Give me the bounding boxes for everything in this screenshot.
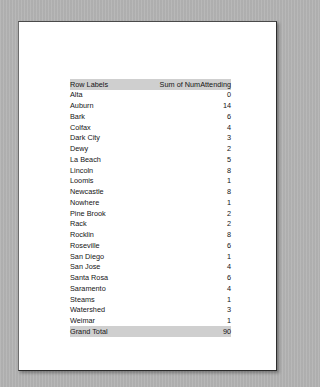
table-row: La Beach5 [70, 154, 231, 165]
row-label: Saramento [70, 283, 126, 294]
row-value: 6 [126, 240, 231, 251]
table-row: Newcastle8 [70, 187, 231, 198]
table-row: Weimar1 [70, 316, 231, 327]
row-value: 2 [126, 208, 231, 219]
row-label: Rack [70, 219, 126, 230]
scanned-page: Row Labels Sum of NumAttending Alta0Aubu… [18, 21, 277, 371]
table-row: Bark6 [70, 111, 231, 122]
table-row: Steams1 [70, 294, 231, 305]
row-value: 0 [126, 90, 231, 101]
row-value: 3 [126, 133, 231, 144]
table-header-row: Row Labels Sum of NumAttending [70, 79, 231, 90]
row-value: 1 [126, 251, 231, 262]
row-value: 6 [126, 111, 231, 122]
row-label: Newcastle [70, 187, 126, 198]
row-label: Rocklin [70, 230, 126, 241]
row-value: 8 [126, 230, 231, 241]
table-header: Row Labels Sum of NumAttending [70, 79, 231, 90]
table-row: Lincoln8 [70, 165, 231, 176]
table-row: Colfax4 [70, 122, 231, 133]
row-label: La Beach [70, 154, 126, 165]
table-row: Santa Rosa6 [70, 273, 231, 284]
row-value: 1 [126, 197, 231, 208]
column-header-row-labels[interactable]: Row Labels [70, 79, 126, 90]
row-value: 3 [126, 305, 231, 316]
row-label: Watershed [70, 305, 126, 316]
table-row: Saramento4 [70, 283, 231, 294]
column-header-sum-of-numattending[interactable]: Sum of NumAttending [126, 79, 231, 90]
row-label: Weimar [70, 316, 126, 327]
grand-total-value: 90 [126, 326, 231, 337]
row-label: Nowhere [70, 197, 126, 208]
row-value: 1 [126, 176, 231, 187]
table-row: Loomis1 [70, 176, 231, 187]
row-value: 14 [126, 101, 231, 112]
table-row: Rack2 [70, 219, 231, 230]
table-row: Auburn14 [70, 101, 231, 112]
table-row: Dark City3 [70, 133, 231, 144]
row-label: Bark [70, 111, 126, 122]
row-label: Loomis [70, 176, 126, 187]
table-row: San Diego1 [70, 251, 231, 262]
table-row: Pine Brook2 [70, 208, 231, 219]
row-label: San Jose [70, 262, 126, 273]
grand-total-label: Grand Total [70, 326, 126, 337]
table-row: Roseville6 [70, 240, 231, 251]
row-label: Santa Rosa [70, 273, 126, 284]
table-row: Alta0 [70, 90, 231, 101]
row-value: 1 [126, 316, 231, 327]
row-label: Alta [70, 90, 126, 101]
row-label: Roseville [70, 240, 126, 251]
row-value: 4 [126, 262, 231, 273]
table-row: San Jose4 [70, 262, 231, 273]
row-value: 4 [126, 283, 231, 294]
row-value: 8 [126, 165, 231, 176]
row-label: Lincoln [70, 165, 126, 176]
row-label: Dewy [70, 144, 126, 155]
table-body: Alta0Auburn14Bark6Colfax4Dark City3Dewy2… [70, 90, 231, 327]
row-label: Dark City [70, 133, 126, 144]
row-value: 2 [126, 219, 231, 230]
table-row: Dewy2 [70, 144, 231, 155]
row-value: 1 [126, 294, 231, 305]
table-row: Rocklin8 [70, 230, 231, 241]
row-value: 2 [126, 144, 231, 155]
row-label: Pine Brook [70, 208, 126, 219]
table-footer: Grand Total 90 [70, 326, 231, 337]
row-value: 4 [126, 122, 231, 133]
row-label: Colfax [70, 122, 126, 133]
row-label: San Diego [70, 251, 126, 262]
row-value: 8 [126, 187, 231, 198]
grand-total-row: Grand Total 90 [70, 326, 231, 337]
row-label: Auburn [70, 101, 126, 112]
row-value: 6 [126, 273, 231, 284]
table-row: Nowhere1 [70, 197, 231, 208]
table-row: Watershed3 [70, 305, 231, 316]
pivot-table: Row Labels Sum of NumAttending Alta0Aubu… [70, 79, 231, 337]
row-label: Steams [70, 294, 126, 305]
row-value: 5 [126, 154, 231, 165]
